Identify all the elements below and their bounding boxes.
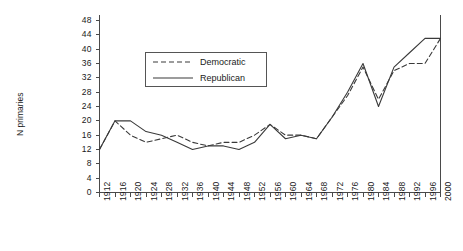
x-tick-label: 1920	[134, 181, 143, 200]
y-tick-label: 0	[66, 188, 92, 197]
y-tick-label: 12	[66, 145, 92, 154]
primaries-line-chart: N primaries 48121620242832364044480 1912…	[0, 0, 463, 251]
x-tick-label: 1996	[429, 181, 438, 200]
y-tick-label: 16	[66, 131, 92, 140]
y-tick-label: 48	[66, 16, 92, 25]
y-tick-label: 24	[66, 102, 92, 111]
x-tick-label: 1952	[258, 181, 267, 200]
x-tick-label: 1940	[212, 181, 221, 200]
y-tick-label: 20	[66, 116, 92, 125]
x-tick-label: 1932	[181, 181, 190, 200]
x-tick-label: 1936	[196, 181, 205, 200]
y-tick-label: 32	[66, 73, 92, 82]
x-tick-label: 1956	[274, 181, 283, 200]
x-tick-label: 1976	[351, 181, 360, 200]
x-tick-label: 1944	[227, 181, 236, 200]
x-tick-label: 1988	[398, 181, 407, 200]
x-tick-label: 1948	[243, 181, 252, 200]
x-tick-label: 1968	[320, 181, 329, 200]
legend-label-democratic: Democratic	[200, 58, 246, 67]
solid-line-icon	[152, 73, 194, 83]
legend-item-democratic: Democratic	[146, 54, 266, 70]
y-tick-label: 8	[66, 159, 92, 168]
y-tick-label: 44	[66, 30, 92, 39]
y-axis-title: N primaries	[16, 74, 25, 154]
x-tick-label: 1984	[382, 181, 391, 200]
axes-group	[96, 15, 441, 197]
y-tick-label: 28	[66, 88, 92, 97]
x-tick-label: 1960	[289, 181, 298, 200]
x-tick-label: 2000	[444, 181, 453, 200]
x-tick-label: 1928	[165, 181, 174, 200]
x-tick-label: 1980	[367, 181, 376, 200]
legend-item-republican: Republican	[146, 70, 266, 86]
x-tick-label: 1924	[150, 181, 159, 200]
x-tick-label: 1916	[119, 181, 128, 200]
y-tick-label: 36	[66, 59, 92, 68]
y-tick-label: 4	[66, 174, 92, 183]
dashed-line-icon	[152, 57, 194, 67]
x-tick-label: 1964	[305, 181, 314, 200]
y-tick-label: 40	[66, 45, 92, 54]
legend-label-republican: Republican	[200, 74, 245, 83]
x-tick-label: 1912	[103, 181, 112, 200]
chart-legend: Democratic Republican	[145, 52, 267, 87]
x-tick-label: 1972	[336, 181, 345, 200]
x-tick-label: 1992	[413, 181, 422, 200]
